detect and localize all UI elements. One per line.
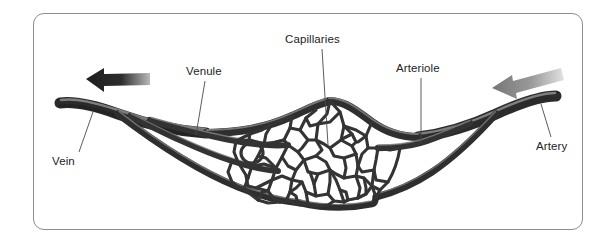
label-capillaries: Capillaries <box>285 33 340 46</box>
label-artery: Artery <box>536 140 567 153</box>
label-vein: Vein <box>52 155 75 168</box>
label-arteriole: Arteriole <box>396 62 440 75</box>
label-venule: Venule <box>186 65 222 78</box>
figure-root: Vein Venule Capillaries Arteriole Artery <box>0 0 613 241</box>
